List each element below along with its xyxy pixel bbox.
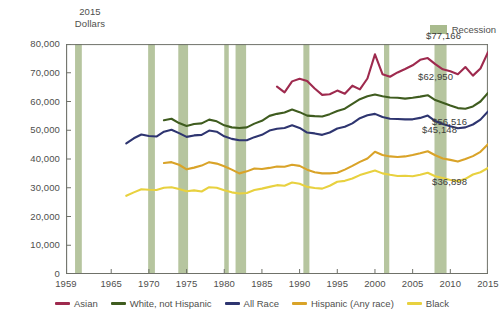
- x-axis-tick-label: 2000: [355, 278, 395, 289]
- y-axis-unit-label: 2015 Dollars: [58, 6, 122, 29]
- legend-item[interactable]: Black: [407, 298, 449, 309]
- legend-item[interactable]: Hispanic (Any race): [292, 298, 394, 309]
- x-axis-tick-label: 2010: [430, 278, 470, 289]
- series-value-callout: $36,898: [432, 176, 467, 187]
- x-axis-tick-label: 2005: [393, 278, 433, 289]
- x-axis-tick-label: 1990: [280, 278, 320, 289]
- legend-label: Black: [426, 298, 449, 309]
- y-axis-tick-label: 10,000: [8, 239, 60, 250]
- legend-color-swatch-icon: [292, 302, 307, 305]
- y-axis-tick-label: 50,000: [8, 124, 60, 135]
- y-axis-unit-line-1: 2015: [58, 6, 122, 18]
- legend-item[interactable]: White, not Hispanic: [111, 298, 212, 309]
- recession-band: [236, 44, 247, 274]
- recession-band: [224, 44, 229, 274]
- x-axis-tick-label: 1975: [167, 278, 207, 289]
- x-axis-tick-label: 1980: [204, 278, 244, 289]
- legend-color-swatch-icon: [225, 302, 240, 305]
- y-axis-tick-label: 30,000: [8, 182, 60, 193]
- x-axis-tick-label: 1985: [242, 278, 282, 289]
- series-legend: AsianWhite, not HispanicAll RaceHispanic…: [0, 298, 504, 309]
- legend-label: Hispanic (Any race): [311, 298, 394, 309]
- y-axis-tick-label: 70,000: [8, 67, 60, 78]
- recession-band: [178, 44, 188, 274]
- x-axis-tick-label: 2015: [468, 278, 504, 289]
- y-axis-tick-label: 40,000: [8, 153, 60, 164]
- legend-color-swatch-icon: [55, 302, 70, 305]
- x-axis-tick-label: 1959: [46, 278, 86, 289]
- y-axis-tick-label: 20,000: [8, 211, 60, 222]
- recession-band: [303, 44, 309, 274]
- legend-color-swatch-icon: [407, 302, 422, 305]
- recession-band: [148, 44, 155, 274]
- x-axis-tick-label: 1995: [317, 278, 357, 289]
- x-axis-tick-label: 1970: [129, 278, 169, 289]
- recession-band: [384, 44, 389, 274]
- series-value-callout: $45,148: [422, 124, 457, 135]
- series-value-callout: $77,166: [426, 30, 461, 41]
- legend-label: All Race: [244, 298, 279, 309]
- x-axis-tick-label: 1965: [91, 278, 131, 289]
- legend-label: White, not Hispanic: [130, 298, 212, 309]
- legend-label: Asian: [74, 298, 98, 309]
- legend-item[interactable]: Asian: [55, 298, 98, 309]
- legend-color-swatch-icon: [111, 302, 126, 305]
- legend-item[interactable]: All Race: [225, 298, 279, 309]
- recession-band: [75, 44, 82, 274]
- y-axis-tick-label: 80,000: [8, 38, 60, 49]
- series-value-callout: $62,950: [418, 71, 453, 82]
- income-by-race-line-chart: 2015 Dollars Recession 010,00020,00030,0…: [0, 0, 504, 324]
- y-axis-tick-label: 60,000: [8, 96, 60, 107]
- y-axis-unit-line-2: Dollars: [58, 18, 122, 30]
